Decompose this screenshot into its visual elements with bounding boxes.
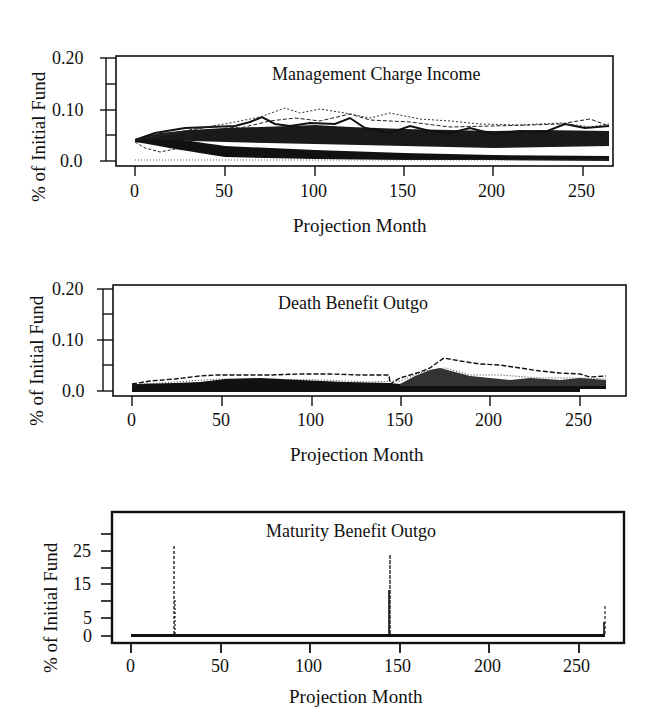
chart-maturity-benefit-outgo: Maturity Benefit Outgo 25 15 5 0 0 50 10…: [0, 0, 654, 725]
y-tick-label: 15: [73, 574, 91, 595]
x-tick-label: 100: [295, 656, 322, 677]
y-tick-label: 25: [73, 541, 91, 562]
x-tick-label: 50: [211, 656, 229, 677]
chart-title: Maturity Benefit Outgo: [266, 521, 436, 542]
x-axis-title: Projection Month: [289, 686, 423, 708]
data-series: [131, 545, 605, 637]
x-tick-label: 0: [126, 656, 135, 677]
x-tick-label: 200: [474, 656, 501, 677]
x-tick-label: 150: [384, 656, 411, 677]
plot-area: [0, 0, 654, 725]
y-tick-label: 0: [83, 626, 92, 647]
y-axis-title: % of Initial Fund: [40, 543, 62, 673]
x-tick-label: 250: [563, 656, 590, 677]
